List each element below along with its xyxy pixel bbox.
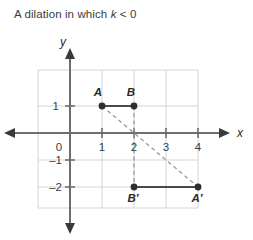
x-tick-labels: 0 1 2 3 4 [56,141,202,153]
y-axis-label: y [59,35,67,49]
x-tick-label-4: 4 [195,141,202,153]
point-label-aprime: A′ [190,192,203,204]
point-label-b: B [127,86,135,98]
coordinate-plane: A B B′ A′ 0 1 2 3 4 1 –1 –2 y x [0,0,253,240]
point-label-bprime: B′ [127,192,139,204]
x-axis-arrow-right-icon [219,128,230,138]
x-tick-label-3: 3 [163,141,169,153]
y-axis [65,48,75,234]
x-tick-label-2: 2 [131,141,137,153]
point-a [99,103,106,110]
x-tick-label-1: 1 [99,141,105,153]
point-aprime [195,184,202,191]
point-bprime [131,184,138,191]
y-tick-label--1: –1 [49,154,62,166]
x-tick-label-0: 0 [56,141,62,153]
dilation-rays [102,106,198,187]
dilation-figure: A dilation in which k < 0 [0,0,253,240]
point-label-a: A [93,86,102,98]
y-tick-label--2: –2 [49,181,62,193]
y-tick-label-1: 1 [53,100,59,112]
y-axis-arrow-down-icon [65,223,75,234]
figure-segments [102,106,198,187]
x-axis-arrow-left-icon [4,128,15,138]
ray-a-to-aprime [102,106,198,187]
point-b [131,103,138,110]
x-axis-label: x [236,126,244,140]
y-axis-arrow-up-icon [65,48,75,59]
